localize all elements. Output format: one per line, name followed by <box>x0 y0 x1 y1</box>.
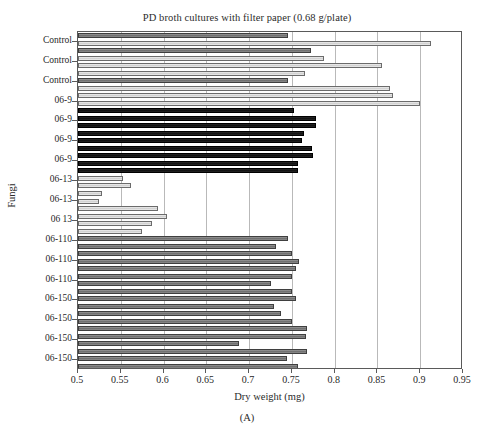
bar-row <box>78 56 462 61</box>
bar <box>78 236 288 241</box>
bar-row <box>78 41 462 46</box>
y-tick-label: 06-9 <box>55 154 72 164</box>
bar-row <box>78 319 462 324</box>
y-tick-label: 06-9 <box>55 95 72 105</box>
x-tick-mark <box>120 369 121 373</box>
bar-row <box>78 364 462 369</box>
x-tick-label: 0.6 <box>156 374 169 385</box>
y-tick-label: 06-110 <box>45 274 72 284</box>
bar-row <box>78 71 462 76</box>
bar <box>78 191 102 196</box>
bar-row <box>78 101 462 106</box>
bar-row <box>78 206 462 211</box>
bar <box>78 319 292 324</box>
bar <box>78 93 393 98</box>
bar-row <box>78 183 462 188</box>
bar-row <box>78 341 462 346</box>
bar-row <box>78 161 462 166</box>
bar <box>78 48 311 53</box>
x-tick-mark <box>77 369 78 373</box>
bar <box>78 161 298 166</box>
bar-row <box>78 33 462 38</box>
y-tick-label: 06-9 <box>55 114 72 124</box>
bar <box>78 364 298 369</box>
bar <box>78 334 306 339</box>
panel-caption: (A) <box>0 412 494 423</box>
plot-area <box>77 31 462 369</box>
bar <box>78 244 276 249</box>
bar <box>78 71 305 76</box>
x-tick-mark <box>291 369 292 373</box>
bar <box>78 266 296 271</box>
y-tick-label: 06-150 <box>45 293 72 303</box>
y-tick-label: 06-150 <box>45 353 72 363</box>
bar <box>78 281 271 286</box>
x-tick-mark <box>163 369 164 373</box>
x-tick-label: 0.65 <box>197 374 215 385</box>
x-tick-mark <box>248 369 249 373</box>
y-tick-label: 06-150 <box>45 313 72 323</box>
x-tick-label: 0.8 <box>327 374 340 385</box>
bar <box>78 63 382 68</box>
bar-row <box>78 123 462 128</box>
bar-row <box>78 116 462 121</box>
bar <box>78 101 420 106</box>
bar-row <box>78 93 462 98</box>
bar <box>78 86 390 91</box>
bar <box>78 259 299 264</box>
bar-row <box>78 236 462 241</box>
chart-figure: PD broth cultures with filter paper (0.6… <box>0 0 494 443</box>
bar-row <box>78 176 462 181</box>
bar-row <box>78 334 462 339</box>
bar <box>78 78 288 83</box>
bar <box>78 56 324 61</box>
bar-row <box>78 146 462 151</box>
bar <box>78 123 316 128</box>
bar <box>78 311 281 316</box>
bar-row <box>78 191 462 196</box>
y-tick-label: 06-9 <box>55 134 72 144</box>
bar <box>78 41 431 46</box>
x-tick-label: 0.95 <box>453 374 471 385</box>
bar-row <box>78 274 462 279</box>
bar <box>78 296 296 301</box>
bar <box>78 341 239 346</box>
bar-row <box>78 244 462 249</box>
y-axis-tick-labels: ControlControlControl06-906-906-906-906-… <box>0 31 72 369</box>
bar-row <box>78 48 462 53</box>
y-tick-label: 06-13 <box>50 174 72 184</box>
x-tick-label: 0.9 <box>413 374 426 385</box>
bar-row <box>78 296 462 301</box>
bar <box>78 199 99 204</box>
x-tick-mark <box>462 369 463 373</box>
bar-row <box>78 199 462 204</box>
y-tick-label: 06-150 <box>45 333 72 343</box>
x-tick-mark <box>334 369 335 373</box>
y-tick-label: 06-110 <box>45 254 72 264</box>
bar <box>78 356 287 361</box>
bar <box>78 229 142 234</box>
x-tick-label: 0.55 <box>111 374 129 385</box>
bar <box>78 138 302 143</box>
bar-row <box>78 168 462 173</box>
chart-title: PD broth cultures with filter paper (0.6… <box>0 12 494 23</box>
bar <box>78 146 312 151</box>
x-axis-ticks: 0.50.550.60.650.70.750.80.850.90.95 <box>77 369 462 389</box>
bar <box>78 349 307 354</box>
bar <box>78 251 292 256</box>
bar-row <box>78 356 462 361</box>
bar <box>78 108 294 113</box>
x-tick-label: 0.5 <box>71 374 84 385</box>
bar-row <box>78 138 462 143</box>
x-tick-mark <box>419 369 420 373</box>
x-tick-label: 0.7 <box>242 374 255 385</box>
bar-row <box>78 78 462 83</box>
bar <box>78 221 152 226</box>
bar <box>78 274 292 279</box>
bar <box>78 33 288 38</box>
y-tick-label: 06-110 <box>45 234 72 244</box>
bar <box>78 116 316 121</box>
bar <box>78 289 292 294</box>
bar-row <box>78 221 462 226</box>
bar-row <box>78 153 462 158</box>
